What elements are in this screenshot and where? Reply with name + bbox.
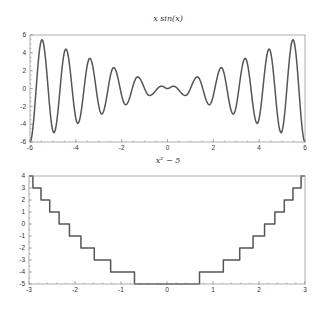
axis-ticks <box>29 176 305 284</box>
y-tick-label: 0 <box>22 85 26 92</box>
x-tick-label: 2 <box>212 144 216 151</box>
y-tick-label: 6 <box>22 31 26 38</box>
tick-labels: -6-4-20246-6-4-20246 <box>20 31 307 151</box>
y-tick-label: -3 <box>19 256 25 263</box>
plot-title: x² − 5 <box>156 156 181 165</box>
y-tick-label: 4 <box>21 172 25 179</box>
y-tick-label: 2 <box>22 67 26 74</box>
y-tick-label: 0 <box>21 220 25 227</box>
y-tick-label: -5 <box>19 280 25 287</box>
plot-frame <box>29 176 305 284</box>
x-tick-label: -2 <box>119 144 125 151</box>
x-tick-label: -4 <box>73 144 79 151</box>
y-tick-label: 2 <box>21 196 25 203</box>
x-tick-label: -3 <box>26 286 32 293</box>
x-tick-label: 2 <box>257 286 261 293</box>
x-tick-label: 0 <box>166 144 170 151</box>
y-tick-label: -1 <box>19 232 25 239</box>
x-tick-label: 4 <box>257 144 261 151</box>
y-tick-label: -4 <box>20 120 26 127</box>
y-tick-label: 3 <box>21 184 25 191</box>
x-tick-label: 3 <box>303 286 307 293</box>
plot-title: x sin(x) <box>153 14 183 23</box>
x-tick-label: -2 <box>72 286 78 293</box>
x-tick-label: 6 <box>303 144 307 151</box>
y-tick-label: -4 <box>19 268 25 275</box>
plot-x-squared-minus-5: x² − 5 -3-2-10123-5-4-3-2-101234 <box>19 156 307 293</box>
series-step-line <box>29 176 305 284</box>
y-tick-label: 4 <box>22 49 26 56</box>
x-tick-label: 0 <box>165 286 169 293</box>
x-tick-label: -6 <box>27 144 33 151</box>
y-tick-label: -2 <box>19 244 25 251</box>
x-tick-label: 1 <box>211 286 215 293</box>
series-line <box>30 40 305 142</box>
y-tick-label: -2 <box>20 103 26 110</box>
plot-x-sin-x: x sin(x) -6-4-20246-6-4-20246 <box>20 14 307 151</box>
y-tick-label: 1 <box>21 208 25 215</box>
x-tick-label: -1 <box>118 286 124 293</box>
figure: x sin(x) -6-4-20246-6-4-20246 x² − 5 -3-… <box>0 0 323 313</box>
y-tick-label: -6 <box>20 138 26 145</box>
